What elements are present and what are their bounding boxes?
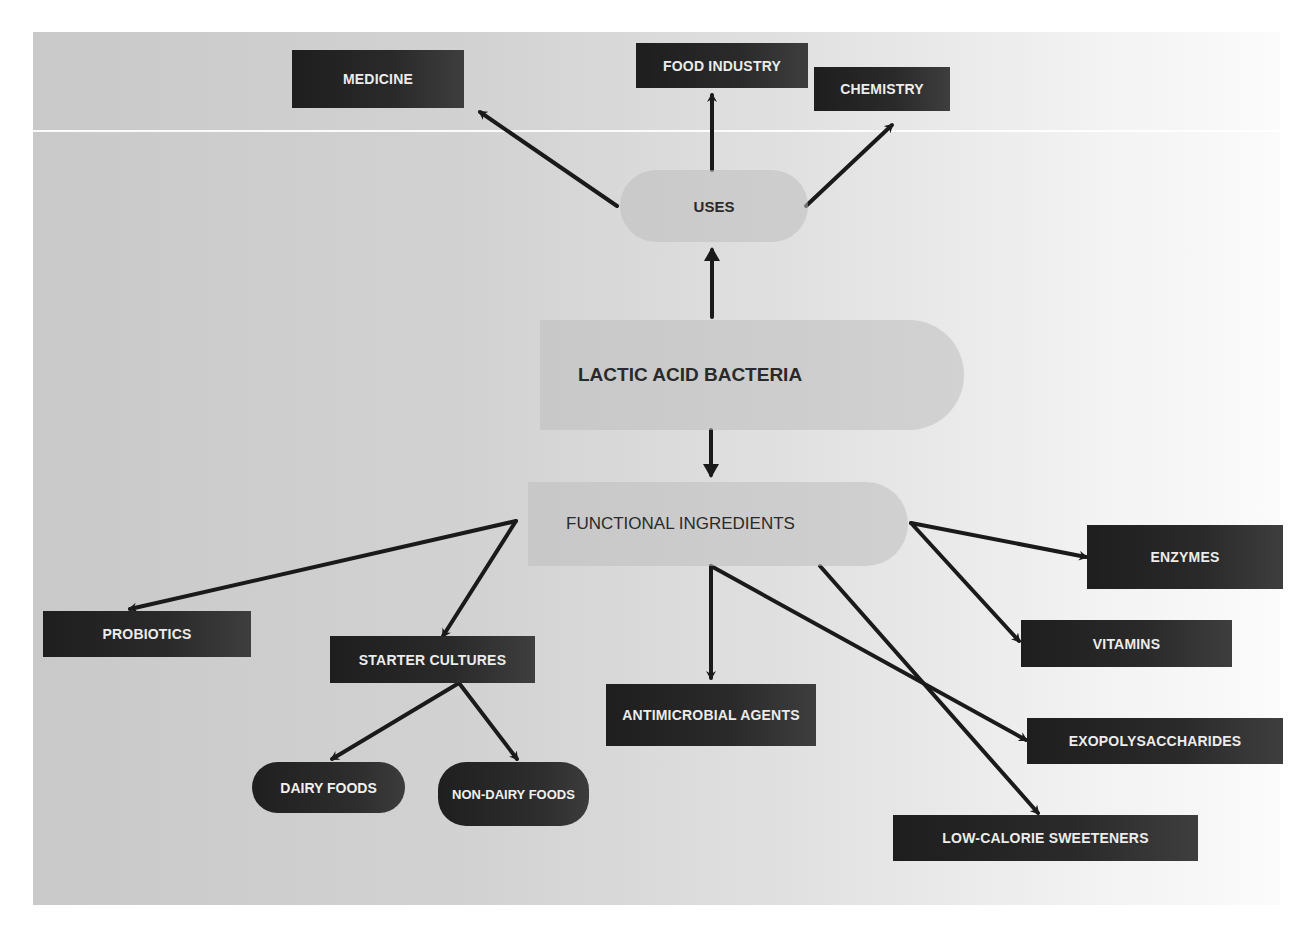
node-enzymes-label: ENZYMES — [1150, 549, 1219, 565]
node-lab-label: LACTIC ACID BACTERIA — [578, 364, 802, 386]
node-dairy-foods: DAIRY FOODS — [252, 762, 405, 813]
node-uses: USES — [620, 170, 808, 242]
node-chemistry: CHEMISTRY — [814, 67, 950, 111]
node-non-dairy-foods: NON-DAIRY FOODS — [438, 762, 589, 826]
scan-artifact-line — [33, 130, 1280, 132]
node-medicine-label: MEDICINE — [343, 71, 413, 87]
node-functional-label: FUNCTIONAL INGREDIENTS — [566, 514, 795, 534]
node-non-dairy-foods-label: NON-DAIRY FOODS — [452, 787, 575, 802]
node-lactic-acid-bacteria: LACTIC ACID BACTERIA — [540, 320, 964, 430]
node-starter-cultures-label: STARTER CULTURES — [359, 652, 506, 668]
node-vitamins-label: VITAMINS — [1093, 636, 1160, 652]
node-food-industry-label: FOOD INDUSTRY — [663, 58, 781, 74]
node-antimicrobial-agents: ANTIMICROBIAL AGENTS — [606, 684, 816, 746]
node-uses-label: USES — [694, 198, 735, 215]
node-vitamins: VITAMINS — [1021, 620, 1232, 667]
node-probiotics-label: PROBIOTICS — [102, 626, 191, 642]
node-food-industry: FOOD INDUSTRY — [636, 43, 808, 88]
node-antimicrobial-label: ANTIMICROBIAL AGENTS — [622, 707, 799, 723]
node-dairy-foods-label: DAIRY FOODS — [280, 780, 376, 796]
node-starter-cultures: STARTER CULTURES — [330, 636, 535, 683]
node-medicine: MEDICINE — [292, 50, 464, 108]
node-enzymes: ENZYMES — [1087, 525, 1283, 589]
node-low-calorie-sweeteners: LOW-CALORIE SWEETENERS — [893, 815, 1198, 861]
diagram-canvas — [33, 32, 1280, 905]
node-functional-ingredients: FUNCTIONAL INGREDIENTS — [528, 482, 908, 566]
node-probiotics: PROBIOTICS — [43, 611, 251, 657]
node-low-calorie-label: LOW-CALORIE SWEETENERS — [942, 830, 1148, 846]
node-exopolysaccharides-label: EXOPOLYSACCHARIDES — [1069, 733, 1242, 749]
node-exopolysaccharides: EXOPOLYSACCHARIDES — [1027, 718, 1283, 764]
node-chemistry-label: CHEMISTRY — [840, 81, 924, 97]
